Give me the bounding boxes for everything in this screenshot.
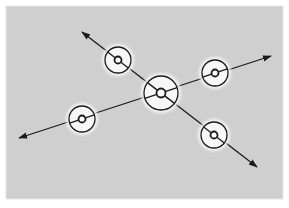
node-inner-ring [212,70,219,77]
node-inner-ring [79,116,86,123]
node-upper-left [102,44,134,76]
node-lower-right [198,119,230,151]
node-inner-ring [157,89,166,98]
node-lower-left [66,103,98,135]
node-center [141,73,181,113]
node-inner-ring [211,132,218,139]
node-upper-right [199,57,231,89]
node-inner-ring [115,57,122,64]
crossing-lines-diagram [0,0,289,208]
diagram-canvas [0,0,289,208]
